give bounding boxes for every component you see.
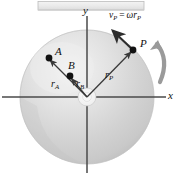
vector-label-r-B: rB bbox=[76, 79, 84, 90]
velocity-subscript: P bbox=[113, 14, 117, 21]
point-marker-B bbox=[67, 73, 74, 80]
angular-rotation-arrow bbox=[150, 40, 164, 82]
x-axis-label: x bbox=[168, 90, 173, 101]
point-label-A: A bbox=[55, 46, 62, 57]
equals-sign: = bbox=[119, 10, 124, 20]
point-marker-A bbox=[46, 55, 53, 62]
y-axis-label: y bbox=[83, 5, 88, 16]
vector-sub-r-B: B bbox=[80, 83, 84, 90]
velocity-equation-label: vP=ωrP bbox=[109, 11, 141, 21]
physics-figure-rotating-disk: x y A B P rA rB rP vP=ωrP bbox=[0, 0, 180, 179]
vector-sub-r-P: P bbox=[109, 74, 113, 81]
vector-sub-r-A: A bbox=[55, 83, 59, 90]
radius-subscript: P bbox=[137, 14, 141, 21]
figure-canvas bbox=[0, 0, 180, 179]
point-marker-P bbox=[130, 47, 137, 54]
vector-label-r-A: rA bbox=[51, 79, 59, 90]
point-label-P: P bbox=[140, 38, 147, 49]
vector-label-r-P: rP bbox=[105, 70, 113, 81]
point-label-B: B bbox=[68, 60, 75, 71]
